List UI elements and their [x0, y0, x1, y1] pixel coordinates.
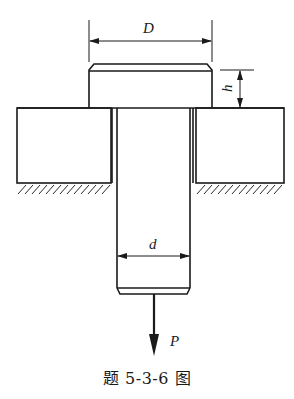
load-arrow-P: P: [149, 294, 179, 356]
label-P: P: [169, 333, 179, 349]
plate-right: [196, 108, 284, 183]
plate-left: [17, 108, 111, 183]
label-d: d: [149, 236, 157, 252]
label-D: D: [142, 20, 154, 36]
figure-caption: 题 5-3-6 图: [0, 365, 294, 389]
bolt-shear-diagram: D h: [0, 0, 294, 399]
dimension-D: D: [89, 20, 212, 62]
dimension-h: h: [219, 70, 254, 107]
ground-hatch-left: [18, 185, 110, 194]
label-h: h: [219, 85, 235, 93]
ground-hatch-right: [197, 185, 282, 194]
bolt-shank: [112, 108, 193, 294]
dimension-d: d: [118, 236, 189, 256]
bolt-head: [89, 64, 212, 108]
